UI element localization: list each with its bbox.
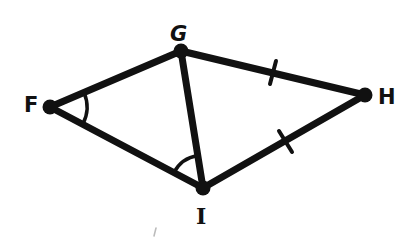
vertex-f — [43, 100, 58, 115]
vertex-i — [196, 181, 211, 196]
angle-arc-f — [83, 93, 87, 125]
segment-fg — [50, 51, 181, 107]
label-h: H — [378, 85, 396, 109]
segment-if — [50, 107, 203, 188]
label-g: G — [170, 22, 187, 46]
angle-arc-i — [174, 155, 198, 172]
label-f: F — [24, 93, 38, 117]
vertex-h — [358, 88, 373, 103]
label-i: I — [196, 203, 206, 229]
segment-gi — [181, 51, 203, 188]
geometry-diagram: F G H I — [0, 0, 412, 245]
stray-mark — [154, 228, 156, 236]
segments — [50, 51, 365, 188]
